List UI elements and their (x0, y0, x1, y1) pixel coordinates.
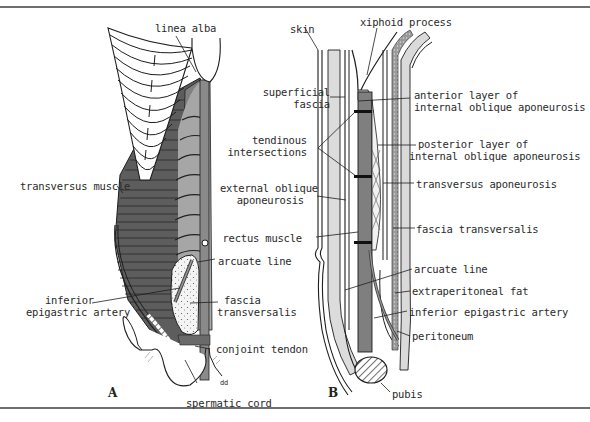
panel-a-drawing (0, 0, 590, 422)
label-spermatic-cord: spermatic cord (186, 397, 272, 409)
label-inferior-epigastric-artery-b: inferior epigastric artery (409, 306, 568, 318)
label-posterior-layer-line2: internal oblique aponeurosis (409, 150, 580, 162)
label-pubis: pubis (392, 388, 423, 400)
panel-letter-a: A (108, 386, 117, 400)
label-extraperitoneal-fat: extraperitoneal fat (412, 285, 528, 297)
label-arcuate-line-a: arcuate line (218, 255, 291, 267)
label-posterior-layer-line1: posterior layer of (418, 138, 528, 150)
label-inferior-epigastric-artery-a-line2: epigastric artery (26, 306, 130, 318)
label-rectus-muscle: rectus muscle (220, 232, 302, 244)
label-external-oblique-line2: aponeurosis (220, 194, 304, 206)
label-conjoint-tendon: conjoint tendon (216, 343, 308, 355)
label-linea-alba: linea alba (155, 22, 216, 34)
label-xiphoid-process: xiphoid process (360, 16, 452, 28)
label-transversus-muscle: transversus muscle (20, 180, 130, 192)
label-transversus-aponeurosis: transversus aponeurosis (416, 178, 557, 190)
label-dd: dd (220, 377, 228, 389)
label-fascia-transversalis-a-line2: transversalis (217, 306, 297, 318)
label-superficial-fascia-line2: fascia (250, 98, 330, 110)
panel-letter-b: B (328, 386, 338, 400)
label-skin: skin (290, 23, 315, 35)
label-tendinous-intersections-line1: tendinous (225, 134, 307, 146)
label-arcuate-line-b: arcuate line (414, 263, 487, 275)
label-anterior-layer-line1: anterior layer of (414, 89, 518, 101)
label-superficial-fascia-line1: superficial (250, 86, 330, 98)
label-fascia-transversalis-b: fascia transversalis (416, 223, 538, 235)
label-peritoneum: peritoneum (412, 330, 473, 342)
label-inferior-epigastric-artery-a-line1: inferior (45, 294, 94, 306)
label-fascia-transversalis-a-line1: fascia (224, 294, 261, 306)
label-tendinous-intersections-line2: intersections (225, 146, 307, 158)
label-external-oblique-line1: external oblique (220, 182, 304, 194)
label-anterior-layer-line2: internal oblique aponeurosis (414, 101, 585, 113)
